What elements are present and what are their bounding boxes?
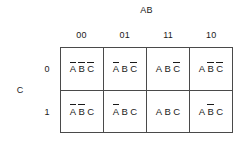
minterm-term: ABC <box>69 63 96 74</box>
literal-c-negated: C <box>130 63 138 74</box>
kmap-cell: ABC <box>103 91 146 133</box>
literal-b-negated: B <box>207 106 215 117</box>
column-header-00: 00 <box>60 28 103 42</box>
literal-a: A <box>155 63 163 74</box>
minterm-term: ABC <box>69 106 96 117</box>
minterm-term: ABC <box>155 63 182 74</box>
literal-c: C <box>87 106 95 117</box>
kmap-row: ABC ABC ABC ABC <box>61 48 232 90</box>
row-header-1: 1 <box>40 90 54 133</box>
kmap-grid: ABC ABC ABC ABC ABC ABC ABC ABC <box>60 47 233 133</box>
literal-c-negated: C <box>87 63 95 74</box>
row-header-0: 0 <box>40 47 54 90</box>
column-header-row: 00 01 11 10 <box>60 28 233 42</box>
literal-a: A <box>198 106 206 117</box>
kmap-cell: ABC <box>61 48 103 90</box>
literal-b-negated: B <box>78 106 86 117</box>
literal-a: A <box>198 63 206 74</box>
literal-b: B <box>121 106 129 117</box>
kmap-cell: ABC <box>189 91 232 133</box>
column-header-10: 10 <box>190 28 233 42</box>
literal-b: B <box>164 106 172 117</box>
left-variable-label: C <box>14 85 26 95</box>
top-variable-label: AB <box>60 5 233 15</box>
karnaugh-map-diagram: AB 00 01 11 10 C 0 1 ABC ABC ABC ABC ABC… <box>0 0 249 152</box>
literal-c-negated: C <box>216 63 224 74</box>
kmap-cell: ABC <box>146 91 189 133</box>
minterm-term: ABC <box>198 63 225 74</box>
literal-a-negated: A <box>112 63 120 74</box>
literal-c-negated: C <box>173 63 181 74</box>
literal-a-negated: A <box>69 63 77 74</box>
column-header-01: 01 <box>103 28 146 42</box>
row-header-column: 0 1 <box>40 47 54 133</box>
literal-a-negated: A <box>112 106 120 117</box>
literal-b: B <box>121 63 129 74</box>
literal-c: C <box>173 106 181 117</box>
literal-b: B <box>164 63 172 74</box>
kmap-cell: ABC <box>61 91 103 133</box>
literal-c: C <box>130 106 138 117</box>
kmap-cell: ABC <box>103 48 146 90</box>
literal-a-negated: A <box>69 106 77 117</box>
literal-a: A <box>155 106 163 117</box>
minterm-term: ABC <box>112 63 139 74</box>
minterm-term: ABC <box>198 106 225 117</box>
minterm-term: ABC <box>112 106 139 117</box>
kmap-cell: ABC <box>189 48 232 90</box>
minterm-term: ABC <box>155 106 182 117</box>
literal-b-negated: B <box>78 63 86 74</box>
literal-b-negated: B <box>207 63 215 74</box>
column-header-11: 11 <box>147 28 190 42</box>
literal-c: C <box>216 106 224 117</box>
kmap-cell: ABC <box>146 48 189 90</box>
kmap-row: ABC ABC ABC ABC <box>61 90 232 133</box>
